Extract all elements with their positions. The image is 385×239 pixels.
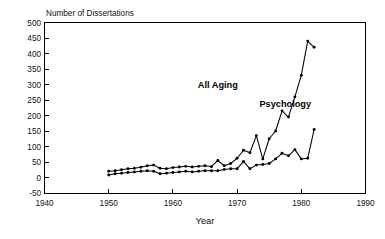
data-point bbox=[242, 149, 245, 152]
chart-canvas: Number of Dissertations -500501001502002… bbox=[0, 0, 385, 239]
data-point bbox=[165, 167, 168, 170]
data-point bbox=[178, 166, 181, 169]
data-point bbox=[255, 134, 258, 137]
data-point bbox=[139, 166, 142, 169]
data-point bbox=[159, 167, 162, 170]
data-point bbox=[274, 130, 277, 133]
data-point bbox=[293, 148, 296, 151]
y-tick-label-250: 250 bbox=[27, 96, 41, 105]
data-point bbox=[300, 74, 303, 77]
data-point bbox=[197, 165, 200, 168]
y-tick-label-300: 300 bbox=[27, 81, 41, 90]
data-point bbox=[159, 172, 162, 175]
data-point bbox=[261, 163, 264, 166]
y-tick-label--50: -50 bbox=[29, 189, 41, 198]
data-point bbox=[236, 167, 239, 170]
data-point bbox=[281, 152, 284, 155]
y-tick-label-100: 100 bbox=[27, 143, 41, 152]
x-tick-label-1970: 1970 bbox=[228, 199, 247, 208]
x-tick-label-1990: 1990 bbox=[356, 199, 375, 208]
data-point bbox=[120, 168, 123, 171]
data-point bbox=[127, 167, 130, 170]
series-line bbox=[109, 129, 314, 175]
x-axis: 194019501960197019801990 bbox=[35, 189, 375, 209]
y-axis: -50050100150200250300350400450500 bbox=[27, 19, 48, 199]
data-point bbox=[107, 174, 110, 177]
data-point bbox=[313, 46, 316, 49]
data-point bbox=[178, 170, 181, 173]
data-point bbox=[306, 157, 309, 160]
data-point bbox=[236, 157, 239, 160]
data-point bbox=[229, 167, 232, 170]
data-point bbox=[261, 157, 264, 160]
data-point bbox=[191, 166, 194, 169]
dissertations-line-chart: Number of Dissertations -500501001502002… bbox=[0, 0, 385, 239]
data-point bbox=[107, 170, 110, 173]
data-point bbox=[281, 109, 284, 112]
data-point bbox=[248, 151, 251, 154]
series-annotations: All AgingPsychology bbox=[198, 80, 312, 109]
data-point bbox=[255, 164, 258, 167]
data-point bbox=[184, 165, 187, 168]
data-point bbox=[146, 169, 149, 172]
plot-frame bbox=[45, 23, 366, 194]
data-point bbox=[152, 170, 155, 173]
data-point bbox=[216, 159, 219, 162]
data-point bbox=[248, 167, 251, 170]
data-point bbox=[165, 172, 168, 175]
x-tick-label-1960: 1960 bbox=[164, 199, 183, 208]
data-point bbox=[120, 172, 123, 175]
data-point bbox=[114, 169, 117, 172]
data-point bbox=[268, 162, 271, 165]
data-point bbox=[184, 170, 187, 173]
y-tick-label-350: 350 bbox=[27, 65, 41, 74]
y-tick-label-200: 200 bbox=[27, 112, 41, 121]
data-point bbox=[197, 170, 200, 173]
data-point bbox=[242, 160, 245, 163]
data-point bbox=[191, 170, 194, 173]
data-point bbox=[223, 164, 226, 167]
y-tick-label-150: 150 bbox=[27, 127, 41, 136]
data-point bbox=[229, 162, 232, 165]
data-point bbox=[114, 172, 117, 175]
data-point bbox=[287, 116, 290, 119]
data-point bbox=[171, 166, 174, 169]
data-point bbox=[287, 154, 290, 157]
x-tick-label-1980: 1980 bbox=[292, 199, 311, 208]
data-point bbox=[204, 169, 207, 172]
data-point bbox=[306, 40, 309, 43]
data-point bbox=[268, 137, 271, 140]
data-point bbox=[133, 167, 136, 170]
series-label-all-aging: All Aging bbox=[198, 80, 238, 90]
y-tick-label-50: 50 bbox=[32, 158, 42, 167]
y-tick-label-0: 0 bbox=[36, 174, 41, 183]
x-tick-label-1950: 1950 bbox=[100, 199, 119, 208]
data-point bbox=[300, 157, 303, 160]
chart-title: Number of Dissertations bbox=[46, 9, 134, 18]
x-tick-label-1940: 1940 bbox=[35, 199, 54, 208]
data-point bbox=[139, 170, 142, 173]
y-tick-label-500: 500 bbox=[27, 19, 41, 28]
data-point bbox=[127, 171, 130, 174]
data-point bbox=[152, 164, 155, 167]
data-point bbox=[210, 165, 213, 168]
data-point bbox=[216, 169, 219, 172]
data-point bbox=[274, 157, 277, 160]
series-psychology bbox=[107, 128, 315, 176]
data-point bbox=[210, 169, 213, 172]
y-tick-label-400: 400 bbox=[27, 50, 41, 59]
data-point bbox=[133, 170, 136, 173]
data-point bbox=[171, 171, 174, 174]
data-point bbox=[223, 168, 226, 171]
data-point bbox=[204, 164, 207, 167]
data-point bbox=[146, 164, 149, 167]
data-point bbox=[313, 128, 316, 131]
series-label-psychology: Psychology bbox=[259, 99, 311, 109]
x-axis-title: Year bbox=[196, 215, 215, 226]
y-tick-label-450: 450 bbox=[27, 34, 41, 43]
